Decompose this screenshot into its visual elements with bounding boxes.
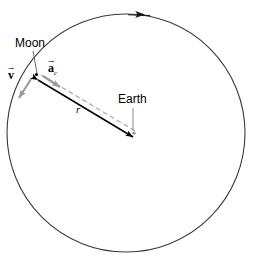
radius-label: r [76,104,80,115]
vector-arrow-accent-icon: → [47,56,56,65]
moon-orbit-diagram: Moon Earth r → v → a c [0,0,256,265]
earth-label: Earth [118,93,147,105]
radius-arrow [38,80,133,137]
velocity-arrow [19,79,31,98]
velocity-symbol-wrap: → v [8,69,14,81]
centripetal-acceleration-label: → a c [48,62,57,77]
moon-point [35,73,38,76]
earth-point [132,131,135,134]
orbit-direction-tail [128,15,150,16]
vector-arrow-accent-icon: → [7,63,16,72]
velocity-label: → v [8,69,14,81]
acceleration-subscript: c [54,69,57,77]
acceleration-symbol-wrap: → a [48,62,54,74]
moon-label: Moon [15,37,45,49]
